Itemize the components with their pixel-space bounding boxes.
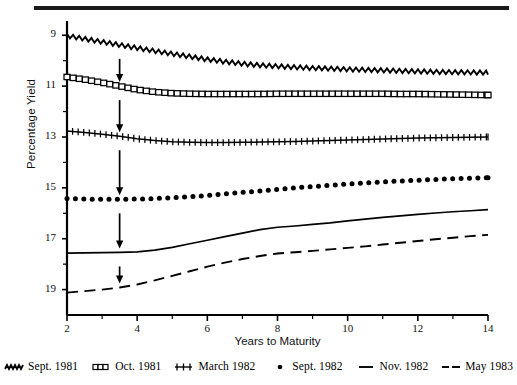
dot-marker [375, 180, 380, 185]
box-marker [119, 84, 125, 89]
box-marker [397, 91, 403, 96]
dot-marker [165, 195, 170, 200]
legend-item: Oct. 1981 [91, 360, 161, 372]
dot-marker [324, 183, 329, 188]
box-marker [292, 91, 298, 96]
dot-marker [98, 197, 103, 202]
dot-marker [199, 193, 204, 198]
chart-legend: Sept. 1981Oct. 1981March 1982Sept. 1982N… [0, 360, 517, 372]
box-marker [422, 91, 428, 96]
dot-marker [274, 187, 279, 192]
legend-label: Oct. 1981 [115, 360, 161, 372]
box-marker [131, 86, 137, 91]
dot-marker [132, 197, 137, 202]
box-marker [168, 90, 174, 95]
box-marker [174, 91, 180, 96]
x-tick-label: 2 [56, 322, 78, 334]
annotation-arrow [116, 150, 123, 195]
box-marker [162, 90, 168, 95]
legend-label: Nov. 1982 [380, 360, 429, 372]
dot-marker [207, 193, 212, 198]
box-marker [391, 91, 397, 96]
box-marker [273, 91, 279, 96]
dot-marker [123, 197, 128, 202]
arrow-head [116, 124, 123, 132]
series-line-sept-1982 [65, 175, 491, 202]
dot-marker [366, 180, 371, 185]
dot-marker [216, 192, 221, 197]
dot-marker [316, 184, 321, 189]
y-tick-label: 9 [36, 27, 56, 39]
dot-marker [190, 194, 195, 199]
box-marker [441, 92, 447, 97]
box-marker [298, 91, 304, 96]
zigzag-glyph [4, 361, 24, 372]
box-marker [113, 83, 119, 88]
box-marker [64, 74, 70, 79]
box-marker [242, 91, 248, 96]
box-marker [466, 92, 472, 97]
y-tick-label: 19 [36, 282, 56, 294]
box-marker [435, 92, 441, 97]
box-marker [205, 91, 211, 96]
dot-marker [232, 191, 237, 196]
box-marker [329, 91, 335, 96]
dot-marker [299, 185, 304, 190]
series-line-oct-1981 [64, 74, 491, 97]
box-marker [76, 76, 82, 81]
dot-marker [182, 195, 187, 200]
box-marker [218, 91, 224, 96]
legend-item: May 1983 [441, 360, 513, 372]
box-marker [478, 92, 484, 97]
arrow-head [116, 74, 123, 82]
y-tick-label: 15 [36, 180, 56, 192]
dot-marker [417, 178, 422, 183]
box-marker [373, 91, 379, 96]
dot-marker [350, 181, 355, 186]
dot-marker [486, 175, 491, 180]
box-marker [125, 85, 131, 90]
box-marker [82, 77, 88, 82]
dot-marker [475, 175, 480, 180]
box-marker [335, 91, 341, 96]
dot-glyph [268, 361, 288, 372]
legend-item: Sept. 1981 [4, 360, 78, 372]
x-tick-label: 6 [196, 322, 218, 334]
box-marker [187, 91, 193, 96]
dot-marker [442, 177, 447, 182]
legend-label: Sept. 1981 [28, 360, 78, 372]
x-tick-label: 4 [126, 322, 148, 334]
box-marker [255, 91, 261, 96]
box-marker [211, 91, 217, 96]
y-tick-label: 11 [36, 78, 56, 90]
dot-marker [224, 191, 229, 196]
dot-marker [283, 186, 288, 191]
legend-item: Sept. 1982 [268, 360, 342, 372]
dot-marker [148, 196, 153, 201]
annotation-arrow [116, 59, 123, 82]
box-marker [249, 91, 255, 96]
dot-marker [106, 197, 111, 202]
dot-marker [115, 197, 120, 202]
figure-root: Percentage Yield Years to Maturity 19171… [0, 0, 517, 385]
x-axis-label: Years to Maturity [67, 335, 488, 347]
box-marker [472, 92, 478, 97]
dot-marker [408, 178, 413, 183]
legend-item: March 1982 [174, 360, 255, 372]
box-marker [323, 91, 329, 96]
box-marker [416, 91, 422, 96]
x-tick-label: 12 [407, 322, 429, 334]
dot-marker [157, 196, 162, 201]
dot-marker [467, 176, 472, 181]
y-axis-label: Percentage Yield [25, 49, 37, 199]
dot-marker [241, 190, 246, 195]
box-marker [348, 91, 354, 96]
dot-marker [425, 177, 430, 182]
box-marker [453, 92, 459, 97]
dot-marker [391, 179, 396, 184]
box-marker [89, 78, 95, 83]
box-marker [286, 91, 292, 96]
annotation-arrow [116, 213, 123, 248]
x-tick-label: 8 [267, 322, 289, 334]
box-marker [342, 91, 348, 96]
